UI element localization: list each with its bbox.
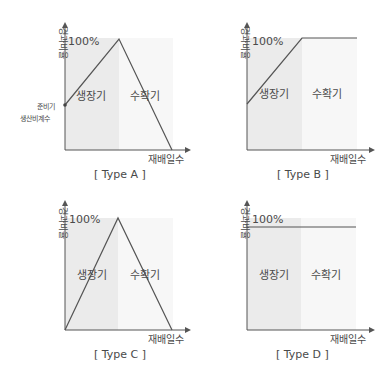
y-axis-label: 경과비율 [240, 207, 251, 239]
panel-type-d: 경과비율 100% 생장기 수확기 재배일수 [ Type D ] [240, 203, 372, 361]
panel-caption: [ Type C ] [94, 348, 146, 361]
growth-label: 생장기 [77, 269, 107, 282]
panel-caption: [ Type B ] [277, 168, 329, 181]
harvest-label: 수확기 [130, 90, 160, 103]
y-axis-label: 경과비율 [58, 207, 69, 239]
growth-label: 생장기 [259, 269, 289, 282]
diagram-canvas: 경과비율 100% 생장기 수확기 준비기 생산비계수 재배일수 [ Type … [0, 0, 391, 372]
y-axis-label: 경과비율 [240, 27, 251, 59]
panel-caption: [ Type A ] [94, 168, 146, 181]
growth-label: 생장기 [259, 88, 289, 101]
panel-caption: [ Type D ] [276, 348, 329, 361]
harvest-label: 수확기 [312, 88, 342, 101]
x-axis-label: 재배일수 [330, 334, 366, 345]
max-label: 100% [252, 213, 283, 226]
panel-type-c: 경과비율 100% 생장기 수확기 재배일수 [ Type C ] [58, 203, 188, 361]
prep-coefficient-label-2: 생산비계수 [20, 114, 51, 123]
panel-type-a: 경과비율 100% 생장기 수확기 준비기 생산비계수 재배일수 [ Type … [20, 25, 188, 181]
x-axis-label: 재배일수 [148, 334, 184, 345]
harvest-label: 수확기 [130, 269, 160, 282]
panel-type-b: 경과비율 100% 생장기 수확기 재배일수 [ Type B ] [240, 25, 372, 181]
x-axis-label: 재배일수 [330, 154, 366, 165]
max-label: 100% [69, 213, 100, 226]
harvest-label: 수확기 [311, 269, 341, 282]
x-axis-label: 재배일수 [148, 154, 184, 165]
max-label: 100% [252, 35, 283, 48]
start-point [63, 103, 67, 107]
growth-label: 생장기 [76, 90, 106, 103]
prep-coefficient-label-1: 준비기 [37, 102, 55, 111]
max-label: 100% [68, 35, 99, 48]
